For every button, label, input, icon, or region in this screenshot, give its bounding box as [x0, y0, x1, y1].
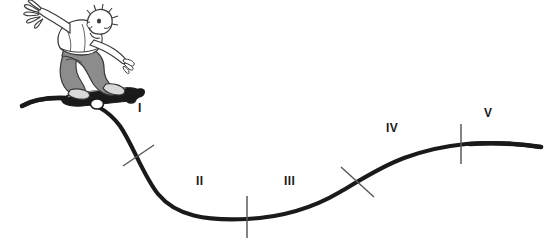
region-label-1: I: [138, 102, 142, 114]
region-label-2: II: [196, 175, 203, 187]
track-curve-left-thick: [22, 98, 68, 106]
skateboard-wheel-front: [91, 99, 104, 109]
skater-eye: [97, 18, 101, 23]
skateboarder-figure: [24, 0, 145, 109]
tick-mark-3: [341, 167, 374, 197]
skater-hand-forward: [123, 59, 134, 74]
figure-canvas: [0, 0, 545, 247]
skateboard-nose: [136, 88, 145, 97]
track-curve: [22, 98, 541, 219]
region-label-5: V: [484, 107, 492, 119]
skater-arm-raised: [24, 0, 70, 33]
skateboard-wheel-rear: [126, 95, 136, 103]
track-profile-group: [22, 98, 541, 220]
region-label-4: IV: [386, 122, 398, 134]
region-label-3: III: [284, 175, 295, 187]
skateboard-physics-figure: I II III IV V: [0, 0, 545, 247]
track-curve-right-thick: [470, 143, 541, 147]
